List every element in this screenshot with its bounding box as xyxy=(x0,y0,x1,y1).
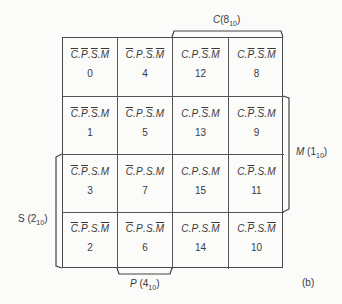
term-var: M xyxy=(156,49,165,60)
minterm-number: 11 xyxy=(251,185,261,196)
term-var: C xyxy=(71,108,78,119)
cell-term: C.P.S.M xyxy=(237,108,276,119)
term-var: C xyxy=(181,49,188,60)
cell-term: C.P.S.M xyxy=(237,223,276,234)
term-var: C xyxy=(181,223,188,234)
term-var: S xyxy=(146,108,153,119)
minterm-number: 7 xyxy=(142,185,148,196)
minterm-number: 4 xyxy=(142,68,148,79)
term-var: S xyxy=(257,166,264,177)
s-var: S xyxy=(18,213,25,224)
kmap-cell-9: C.P.S.M9 xyxy=(229,97,284,155)
term-var: S xyxy=(201,223,208,234)
cell-term: C.P.S.M xyxy=(126,166,165,177)
minterm-number: 8 xyxy=(254,68,260,79)
term-var: M xyxy=(267,49,276,60)
kmap-cell-5: C.P.S.M5 xyxy=(118,97,173,155)
term-var: M xyxy=(156,108,165,119)
cell-term: C.P.S.M xyxy=(71,223,110,234)
cell-term: C.P.S.M xyxy=(126,108,165,119)
term-var: C xyxy=(126,223,133,234)
cell-term: C.P.S.M xyxy=(181,108,220,119)
cell-term: C.P.S.M xyxy=(126,49,165,60)
kmap-cell-13: C.P.S.M13 xyxy=(173,97,229,155)
term-var: C xyxy=(71,49,78,60)
minterm-number: 2 xyxy=(87,242,93,253)
cell-term: C.P.S.M xyxy=(237,49,276,60)
kmap-cell-15: C.P.S.M15 xyxy=(173,155,229,213)
cell-term: C.P.S.M xyxy=(237,166,276,177)
cell-term: C.P.S.M xyxy=(181,166,220,177)
c-group-label: C(810) xyxy=(213,14,240,27)
minterm-number: 5 xyxy=(142,127,148,138)
c-var: C xyxy=(213,14,220,25)
term-var: P xyxy=(136,49,143,60)
kmap-cell-12: C.P.S.M12 xyxy=(173,38,229,97)
term-var: M xyxy=(156,223,165,234)
term-var: M xyxy=(267,166,276,177)
term-var: P xyxy=(136,108,143,119)
term-var: M xyxy=(267,108,276,119)
minterm-number: 12 xyxy=(195,68,206,79)
term-var: C xyxy=(181,108,188,119)
term-var: S xyxy=(91,49,98,60)
term-var: C xyxy=(126,49,133,60)
term-var: S xyxy=(146,166,153,177)
term-var: S xyxy=(91,166,98,177)
p-group-label: P (410) xyxy=(130,278,159,291)
karnaugh-map: C.P.S.M0C.P.S.M4C.P.S.M12C.P.S.M8C.P.S.M… xyxy=(62,37,283,268)
figure-label: (b) xyxy=(302,277,314,288)
kmap-cell-0: C.P.S.M0 xyxy=(63,38,118,97)
minterm-number: 1 xyxy=(87,127,93,138)
term-var: M xyxy=(156,166,165,177)
kmap-cell-10: C.P.S.M10 xyxy=(229,213,284,269)
term-var: M xyxy=(211,166,220,177)
minterm-number: 9 xyxy=(254,127,260,138)
cell-term: C.P.S.M xyxy=(181,49,220,60)
term-var: P xyxy=(248,108,255,119)
kmap-cell-8: C.P.S.M8 xyxy=(229,38,284,97)
term-var: C xyxy=(237,49,244,60)
term-var: S xyxy=(201,108,208,119)
p-base: 10 xyxy=(148,284,156,291)
cell-term: C.P.S.M xyxy=(181,223,220,234)
term-var: P xyxy=(192,49,199,60)
term-var: P xyxy=(136,166,143,177)
term-var: P xyxy=(192,108,199,119)
term-var: M xyxy=(211,49,220,60)
term-var: P xyxy=(248,49,255,60)
term-var: M xyxy=(101,223,110,234)
term-var: S xyxy=(91,108,98,119)
term-var: P xyxy=(81,223,88,234)
minterm-number: 13 xyxy=(195,127,206,138)
s-group-label: S (210) xyxy=(18,213,47,226)
term-var: C xyxy=(71,223,78,234)
kmap-cell-3: C.P.S.M3 xyxy=(63,155,118,213)
cell-term: C.P.S.M xyxy=(71,166,110,177)
term-var: P xyxy=(248,223,255,234)
minterm-number: 10 xyxy=(251,242,262,253)
m-var: M xyxy=(296,146,304,157)
minterm-number: 0 xyxy=(87,68,93,79)
term-var: M xyxy=(211,108,220,119)
term-var: S xyxy=(91,223,98,234)
term-var: M xyxy=(267,223,276,234)
kmap-cell-2: C.P.S.M2 xyxy=(63,213,118,269)
term-var: C xyxy=(237,166,244,177)
minterm-number: 6 xyxy=(142,242,148,253)
minterm-number: 3 xyxy=(87,185,93,196)
c-base: 10 xyxy=(229,20,237,27)
term-var: P xyxy=(81,49,88,60)
kmap-cell-1: C.P.S.M1 xyxy=(63,97,118,155)
term-var: P xyxy=(248,166,255,177)
kmap-cell-14: C.P.S.M14 xyxy=(173,213,229,269)
term-var: S xyxy=(201,166,208,177)
kmap-cell-4: C.P.S.M4 xyxy=(118,38,173,97)
kmap-cell-11: C.P.S.M11 xyxy=(229,155,284,213)
term-var: S xyxy=(146,223,153,234)
minterm-number: 15 xyxy=(195,185,206,196)
minterm-number: 14 xyxy=(195,242,206,253)
term-var: M xyxy=(101,49,110,60)
term-var: C xyxy=(237,108,244,119)
m-base: 10 xyxy=(316,152,324,159)
